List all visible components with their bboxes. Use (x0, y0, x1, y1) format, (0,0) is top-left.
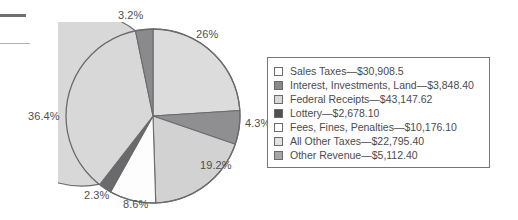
legend-swatch-icon (274, 123, 283, 132)
page-rule-second (0, 43, 30, 44)
legend-item-label: Lottery—$2,678.10 (290, 106, 379, 120)
legend-item-interest-investments-land[interactable]: Interest, Investments, Land—$3,848.40 (274, 78, 485, 92)
pie-chart-svg (58, 22, 248, 212)
legend-swatch-icon (274, 67, 283, 76)
pie-label-sales-taxes: 26% (196, 28, 218, 40)
pie-label-federal-receipts: 36.4% (28, 110, 60, 122)
pie-slice-sales-taxes[interactable] (153, 29, 240, 116)
page-rule-top (0, 14, 26, 17)
pie-label-all-other-taxes: 19.2% (200, 159, 232, 171)
legend-swatch-icon (274, 137, 283, 146)
legend-swatch-icon (274, 95, 283, 104)
pie-label-interest-investments-land: 3.2% (118, 9, 143, 21)
legend-swatch-icon (274, 81, 283, 90)
legend-item-all-other-taxes[interactable]: All Other Taxes—$22,795.40 (274, 134, 485, 148)
pie-label-fees-fines-penalties: 8.6% (123, 198, 148, 210)
chart-legend: Sales Taxes—$30,908.5 Interest, Investme… (267, 57, 490, 168)
legend-item-label: Federal Receipts—$43,147.62 (290, 92, 432, 106)
legend-item-other-revenue[interactable]: Other Revenue—$5,112.40 (274, 148, 485, 162)
pie-chart (58, 22, 248, 212)
legend-item-label: Fees, Fines, Penalties—$10,176.10 (290, 120, 457, 134)
legend-swatch-icon (274, 151, 283, 160)
legend-swatch-icon (274, 109, 283, 118)
legend-item-lottery[interactable]: Lottery—$2,678.10 (274, 106, 485, 120)
legend-item-federal-receipts[interactable]: Federal Receipts—$43,147.62 (274, 92, 485, 106)
pie-label-lottery: 2.3% (84, 189, 109, 201)
legend-item-label: Sales Taxes—$30,908.5 (290, 64, 404, 78)
legend-item-label: All Other Taxes—$22,795.40 (290, 134, 424, 148)
legend-item-fees-fines-penalties[interactable]: Fees, Fines, Penalties—$10,176.10 (274, 120, 485, 134)
revenue-pie-figure: 26% 4.3% 19.2% 8.6% 2.3% 36.4% 3.2% Sale… (0, 0, 518, 220)
legend-list: Sales Taxes—$30,908.5 Interest, Investme… (274, 64, 485, 162)
legend-item-label: Interest, Investments, Land—$3,848.40 (290, 78, 474, 92)
legend-item-label: Other Revenue—$5,112.40 (290, 148, 418, 162)
legend-item-sales-taxes[interactable]: Sales Taxes—$30,908.5 (274, 64, 485, 78)
